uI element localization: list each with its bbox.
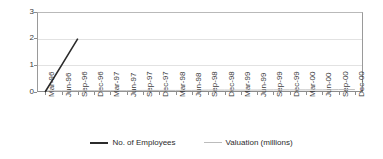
y-tick-mark-3 [34,12,37,13]
legend-swatch-employees-icon [90,142,108,144]
y-tick-label-1: 1 [10,61,34,69]
x-tick-mark [45,92,46,95]
x-tick-mark [290,92,291,95]
y-tick-label-2: 2 [10,34,34,42]
x-tick-label: Dec-96 [97,71,105,97]
x-tick-mark [192,92,193,95]
chart-legend: No. of Employees Valuation (millions) [0,138,383,147]
y-tick-mark-0 [34,92,37,93]
x-tick-label: Mar-00 [309,72,317,97]
x-tick-mark [257,92,258,95]
y-tick-mark-1 [34,65,37,66]
x-tick-label: Dec-00 [358,71,366,97]
x-tick-label: Dec-98 [228,71,236,97]
x-tick-mark [143,92,144,95]
legend-item-employees: No. of Employees [90,138,175,147]
y-tick-mark-2 [34,38,37,39]
x-tick-label: Sep-00 [342,71,350,97]
x-tick-label: Jun-96 [65,73,73,97]
x-tick-mark [355,92,356,95]
x-tick-label: Jun-97 [130,73,138,97]
legend-item-valuation: Valuation (millions) [204,138,293,147]
legend-label-employees: No. of Employees [112,138,175,147]
x-tick-label: Jun-00 [325,73,333,97]
x-tick-mark [94,92,95,95]
line-chart: 3 2 1 0 Mar-96Jun-96Sep-96Dec-96Mar-97Ju… [0,0,383,159]
x-tick-label: Dec-99 [293,71,301,97]
x-tick-label: Dec-97 [162,71,170,97]
x-tick-label: Sep-97 [146,71,154,97]
legend-swatch-valuation-icon [204,142,222,143]
x-tick-mark [339,92,340,95]
x-tick-label: Sep-96 [81,71,89,97]
x-tick-label: Mar-97 [113,72,121,97]
x-tick-label: Sep-98 [211,71,219,97]
x-tick-mark [62,92,63,95]
x-tick-mark [306,92,307,95]
x-tick-label: Mar-98 [179,72,187,97]
x-tick-mark [176,92,177,95]
legend-label-valuation: Valuation (millions) [226,138,293,147]
gridline-2 [38,39,362,40]
x-tick-label: Sep-99 [276,71,284,97]
x-tick-mark [225,92,226,95]
x-tick-label: Mar-99 [244,72,252,97]
x-tick-mark [241,92,242,95]
x-tick-label: Mar-96 [48,72,56,97]
gridline-1 [38,65,362,66]
x-tick-label: Jun-99 [260,73,268,97]
y-tick-label-3: 3 [10,8,34,16]
x-tick-mark [78,92,79,95]
x-tick-mark [127,92,128,95]
x-tick-label: Jun-98 [195,73,203,97]
y-tick-label-0: 0 [10,88,34,96]
